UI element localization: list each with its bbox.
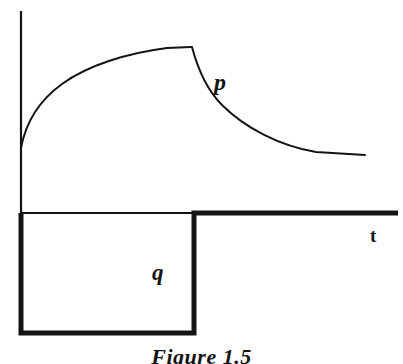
curve-p-decay bbox=[192, 47, 365, 155]
pulse-q bbox=[21, 213, 398, 333]
curve-p-rise bbox=[21, 47, 191, 148]
figure-plot bbox=[0, 0, 403, 364]
curve-label-q: q bbox=[152, 261, 164, 284]
figure-container: p q t Figure 1.5 bbox=[0, 0, 403, 364]
figure-caption: Figure 1.5 bbox=[0, 344, 403, 364]
axis-label-t: t bbox=[370, 226, 376, 245]
curve-label-p: p bbox=[214, 70, 226, 94]
